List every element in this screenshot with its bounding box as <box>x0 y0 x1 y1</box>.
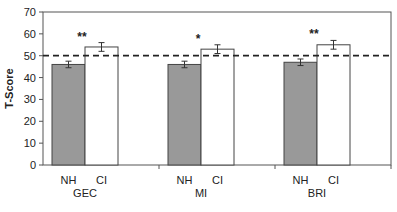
x-subcategory-label: NH <box>293 174 309 186</box>
significance-marker: ** <box>309 27 319 41</box>
x-subcategory-label: CI <box>212 174 223 186</box>
y-tick-label: 70 <box>24 6 36 18</box>
bar-ci-bri <box>317 45 350 165</box>
x-category-label: BRI <box>308 187 326 199</box>
x-subcategory-label: CI <box>328 174 339 186</box>
bar-ci-mi <box>201 49 234 165</box>
y-tick-label: 20 <box>24 115 36 127</box>
bar-nh-gec <box>52 64 85 165</box>
bar-nh-bri <box>284 62 317 165</box>
significance-marker: ** <box>77 30 87 44</box>
x-category-label: GEC <box>73 187 97 199</box>
significance-marker: * <box>196 32 201 46</box>
bar-chart: 010203040506070T-ScoreNHCIGEC**NHCIMI*NH… <box>0 0 397 212</box>
x-subcategory-label: NH <box>61 174 77 186</box>
bar-ci-gec <box>85 47 118 165</box>
y-axis-label: T-Score <box>3 68 15 108</box>
y-tick-label: 60 <box>24 28 36 40</box>
y-tick-label: 30 <box>24 93 36 105</box>
y-tick-label: 10 <box>24 137 36 149</box>
y-tick-label: 0 <box>30 159 36 171</box>
y-tick-label: 50 <box>24 50 36 62</box>
x-subcategory-label: NH <box>177 174 193 186</box>
y-tick-label: 40 <box>24 72 36 84</box>
bar-nh-mi <box>168 64 201 165</box>
x-category-label: MI <box>195 187 207 199</box>
x-subcategory-label: CI <box>96 174 107 186</box>
